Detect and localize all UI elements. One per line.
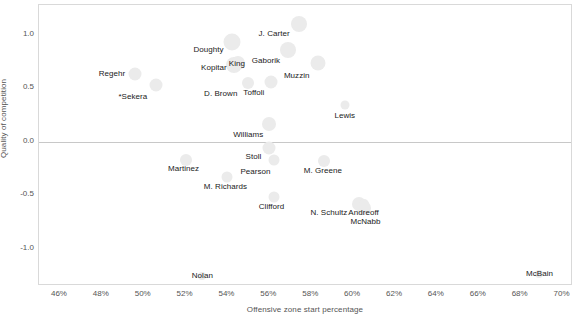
data-point-label: N. Schultz [310,209,347,217]
data-point-label: *Sekera [118,93,147,101]
x-axis-tick-label: 68% [512,290,528,298]
data-bubble[interactable] [280,42,296,58]
data-point-label: D. Brown [204,90,237,98]
y-axis-tick-label: 0.0 [4,137,34,145]
data-point-label: Martinez [168,165,199,173]
data-bubble[interactable] [340,101,349,110]
x-axis-tick-label: 50% [135,290,151,298]
x-axis-tick-label: 62% [386,290,402,298]
x-axis-tick-label: 64% [428,290,444,298]
data-bubble[interactable] [129,68,142,81]
data-point-label: Nolan [192,272,213,280]
data-bubble[interactable] [150,79,163,92]
x-axis-tick-label: 70% [554,290,570,298]
x-axis-tick-label: 58% [302,290,318,298]
x-axis-title: Offensive zone start percentage [247,305,363,314]
data-point-label: Clifford [259,203,285,211]
data-bubble[interactable] [310,55,325,70]
x-axis-tick-label: 56% [260,290,276,298]
data-point-label: Andreoff [348,209,379,217]
data-point-label: M. Richards [204,183,247,191]
data-point-label: Stoll [246,153,262,161]
data-bubble[interactable] [222,172,233,183]
data-point-label: McBain [526,270,553,278]
data-point-label: Doughty [194,46,224,54]
x-axis-tick-label: 52% [177,290,193,298]
data-bubble[interactable] [268,154,279,165]
data-bubble[interactable] [262,117,276,131]
data-point-label: Gaborik [252,57,280,65]
y-axis-title: Quality of competition [0,79,8,158]
data-bubble[interactable] [268,192,279,203]
data-point-label: J. Carter [259,30,290,38]
x-axis-tick-label: 54% [218,290,234,298]
x-axis-tick-label: 48% [93,290,109,298]
data-bubble[interactable] [223,34,240,51]
x-axis-tick-label: 46% [51,290,67,298]
y-axis-tick-label: -1.0 [4,244,34,252]
data-point-label: Regehr [99,70,126,78]
data-point-label: McNabb [351,218,381,226]
y-axis-tick-label: -0.5 [4,190,34,198]
data-point-label: M. Greene [304,167,342,175]
data-point-label: Lewis [334,112,355,120]
plot-area: Regehr*SekeraDoughtyKopitarKingJ. Carter… [38,4,572,285]
data-point-label: Muzzin [284,72,310,80]
data-point-label: Kopitar [201,64,227,72]
data-bubble[interactable] [265,75,278,88]
y-axis-tick-label: 0.5 [4,83,34,91]
x-axis-tick-label: 60% [344,290,360,298]
y-axis-tick-label: 1.0 [4,30,34,38]
x-axis-tick-label: 66% [470,290,486,298]
scatter-chart: Regehr*SekeraDoughtyKopitarKingJ. Carter… [0,0,581,321]
data-point-label: King [229,60,245,68]
data-bubble[interactable] [263,142,276,155]
data-point-label: Toffoli [243,89,264,97]
zero-reference-line [39,142,571,143]
data-point-label: Williams [233,131,263,139]
data-point-label: Pearson [240,168,270,176]
data-bubble[interactable] [291,16,307,32]
